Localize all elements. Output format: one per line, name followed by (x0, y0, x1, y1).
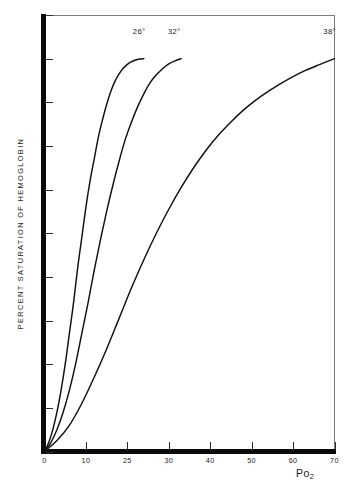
x-tick-label: 0 (30, 456, 60, 465)
x-tick (210, 442, 211, 449)
x-tick-label: 25 (112, 456, 142, 465)
x-tick-label: 70 (320, 456, 350, 465)
x-tick (169, 442, 170, 449)
y-tick (46, 364, 53, 365)
y-tick (46, 277, 53, 278)
x-tick (86, 442, 87, 449)
x-tick-label: 60 (278, 456, 308, 465)
y-tick (46, 190, 53, 191)
y-tick (46, 146, 53, 147)
x-tick-label: 50 (237, 456, 267, 465)
curve-label-26: 26° (133, 27, 146, 36)
x-tick-label: 10 (71, 456, 101, 465)
y-tick (46, 321, 53, 322)
x-axis-title: Po2 (296, 467, 315, 479)
x-axis-title-main: Po (296, 467, 310, 479)
x-tick (252, 442, 253, 449)
y-tick (46, 452, 53, 453)
x-axis-title-subscript: 2 (310, 472, 315, 481)
x-tick (293, 442, 294, 449)
x-tick-label: 40 (195, 456, 225, 465)
x-axis-spine (41, 449, 336, 454)
plot-frame (44, 15, 335, 452)
figure: 0102030405060708090100 010253040506070 P… (0, 0, 352, 489)
y-tick (46, 408, 53, 409)
x-tick (335, 442, 336, 449)
curve-label-32: 32° (168, 27, 181, 36)
y-tick (46, 15, 53, 16)
curve-label-38: 38° (323, 27, 336, 36)
y-axis-title: PERCENT SATURATION OF HEMOGLOBIN (14, 15, 28, 452)
y-tick (46, 59, 53, 60)
x-tick-label: 30 (154, 456, 184, 465)
y-tick (46, 102, 53, 103)
x-tick (127, 442, 128, 449)
y-tick (46, 233, 53, 234)
